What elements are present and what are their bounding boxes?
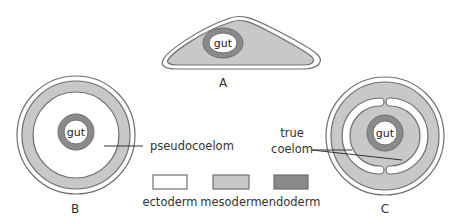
figure-b-caption: B xyxy=(71,202,79,216)
figure-a-caption: A xyxy=(219,76,228,90)
legend: ectoderm mesoderm endoderm xyxy=(142,175,320,209)
figure-c-coelom-label: coelom xyxy=(271,142,313,156)
figure-b-gut-label: gut xyxy=(67,126,86,139)
figure-c-true-label: true xyxy=(280,126,304,140)
legend-label-mesoderm: mesoderm xyxy=(200,195,261,209)
body-plan-diagram: gut A gut pseudocoelom B gut true coelom… xyxy=(0,0,461,216)
figure-c-gut-label: gut xyxy=(376,127,395,140)
legend-swatch-ectoderm xyxy=(153,175,187,189)
legend-label-endoderm: endoderm xyxy=(262,195,321,209)
legend-swatch-endoderm xyxy=(274,175,308,189)
figure-a-acoelomate: gut A xyxy=(162,16,320,90)
figure-a-gut-label: gut xyxy=(214,37,233,50)
legend-label-ectoderm: ectoderm xyxy=(142,195,197,209)
legend-swatch-mesoderm xyxy=(213,175,249,189)
figure-b-pseudocoelom-label: pseudocoelom xyxy=(150,139,234,153)
figure-c-caption: C xyxy=(381,202,389,216)
